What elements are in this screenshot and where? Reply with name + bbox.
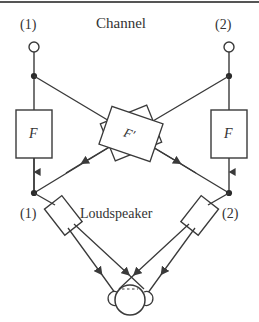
loudspeaker-title: Loudspeaker: [80, 207, 152, 221]
acoustic-path-left-ipsi: [68, 228, 118, 297]
channel-input-2-label: (2): [215, 18, 231, 32]
listener-head-icon: [115, 285, 145, 315]
filter-box-left-label: F: [29, 127, 38, 141]
channel-title: Channel: [96, 16, 146, 31]
terminal-circle-1: [29, 42, 39, 52]
terminal-circle-2: [224, 42, 234, 52]
filter-box-right-label: F: [224, 127, 233, 141]
acoustic-path-right-ipsi: [145, 228, 195, 297]
loudspeaker-label-2: (2): [222, 207, 238, 221]
diagram-canvas: [0, 0, 259, 322]
wire-left-to-speaker: [34, 193, 55, 205]
acoustic-path-right-contra: [119, 224, 189, 289]
acoustic-path-left-contra: [74, 224, 144, 289]
loudspeaker-label-1: (1): [20, 207, 36, 221]
channel-input-1-label: (1): [20, 18, 36, 32]
crosstalk-cancellation-diagram: Channel (1) (2) F F F′ Loudspeaker (1) (…: [0, 0, 259, 322]
wire-right-to-speaker: [208, 193, 229, 205]
